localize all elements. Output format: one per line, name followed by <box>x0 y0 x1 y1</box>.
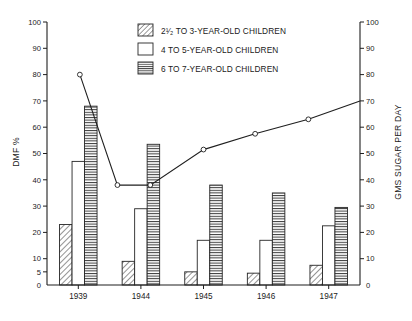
legend-label: 4 TO 5-YEAR-OLD CHILDREN <box>161 45 278 55</box>
bar <box>135 209 148 285</box>
left-axis-title: DMF % <box>11 137 21 167</box>
y2-tick-label: 20 <box>366 228 374 237</box>
y2-origin-label: 0 <box>366 281 370 290</box>
y-tick-label: 60 <box>33 123 41 132</box>
bar <box>122 261 134 285</box>
x-axis: 19391944194519461947 <box>47 285 360 301</box>
line-marker <box>201 147 206 152</box>
bar <box>310 265 323 285</box>
y2-tick-label: 70 <box>366 97 374 106</box>
y2-tick-label: 100 <box>366 18 379 27</box>
y-tick-label: 100 <box>28 18 41 27</box>
y2-tick-label: 80 <box>366 70 374 79</box>
legend-swatch <box>138 43 153 55</box>
y2-tick-label: 50 <box>366 149 374 158</box>
line-marker <box>306 117 311 122</box>
bar <box>322 226 335 285</box>
right-axis-title: GMS SUGAR PER DAY <box>393 104 403 199</box>
y-tick-label: 90 <box>33 44 41 53</box>
y2-tick-label: 10 <box>366 254 374 263</box>
y-tick-label: 5 <box>37 268 41 277</box>
bar <box>197 240 210 285</box>
y-tick-label: 10 <box>33 254 41 263</box>
legend-label: 6 TO 7-YEAR-OLD CHILDREN <box>161 64 278 74</box>
right-axis: 1020304050607080901000 <box>360 18 379 290</box>
x-tick-label: 1946 <box>257 292 276 301</box>
y2-tick-label: 30 <box>366 202 374 211</box>
bar <box>260 240 273 285</box>
bar <box>247 273 260 285</box>
bar <box>335 207 348 285</box>
bar <box>85 106 98 285</box>
bar <box>60 225 73 285</box>
y-tick-label: 50 <box>33 149 41 158</box>
line-marker <box>253 131 258 136</box>
bar <box>272 193 285 285</box>
line-marker <box>77 72 82 77</box>
y2-tick-label: 60 <box>366 123 374 132</box>
line-series-group <box>77 72 360 187</box>
x-tick-label: 1944 <box>132 292 151 301</box>
chart-figure: 51020304050607080901000 1020304050607080… <box>0 0 412 321</box>
bar-series-group <box>60 106 348 285</box>
bar <box>72 161 85 285</box>
y-tick-label: 30 <box>33 202 41 211</box>
y-tick-label: 70 <box>33 97 41 106</box>
x-tick-label: 1945 <box>194 292 213 301</box>
bar <box>210 185 223 285</box>
y2-tick-label: 90 <box>366 44 374 53</box>
line-marker <box>148 183 153 188</box>
y-origin-label: 0 <box>37 281 41 290</box>
sugar-line <box>80 75 360 186</box>
legend-label: 2¹⁄₂ TO 3-YEAR-OLD CHILDREN <box>161 26 286 36</box>
chart-legend: 2¹⁄₂ TO 3-YEAR-OLD CHILDREN4 TO 5-YEAR-O… <box>138 24 286 74</box>
chart-canvas: 51020304050607080901000 1020304050607080… <box>0 0 412 321</box>
y-tick-label: 80 <box>33 70 41 79</box>
legend-swatch <box>138 62 153 74</box>
y2-tick-label: 40 <box>366 176 374 185</box>
bar <box>147 144 160 285</box>
legend-swatch <box>138 24 153 36</box>
x-tick-label: 1947 <box>320 292 339 301</box>
y-tick-label: 40 <box>33 176 41 185</box>
line-marker <box>115 183 120 188</box>
y-tick-label: 20 <box>33 228 41 237</box>
left-axis: 51020304050607080901000 <box>28 18 47 290</box>
x-tick-label: 1939 <box>69 292 88 301</box>
bar <box>185 272 198 285</box>
